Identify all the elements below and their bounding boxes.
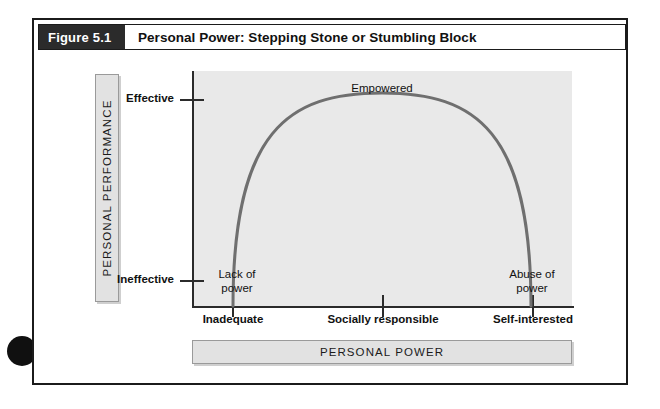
performance-curve-path: [233, 93, 531, 306]
x-tick-label-self-interested: Self-interested: [462, 313, 604, 325]
figure-number: Figure 5.1: [39, 25, 125, 49]
x-tick-label-inadequate: Inadequate: [162, 313, 304, 325]
annotation-abuse-of-power: Abuse of power: [490, 268, 574, 296]
y-tick-label-effective: Effective: [70, 92, 174, 104]
annotation-abuse-line1: Abuse of: [490, 268, 574, 282]
y-tick-label-ineffective: Ineffective: [60, 273, 174, 285]
annotation-lack-of-power: Lack of power: [200, 268, 274, 296]
annotation-empowered: Empowered: [317, 82, 447, 96]
x-axis-title-label: PERSONAL POWER: [320, 346, 444, 358]
annotation-abuse-line2: power: [490, 282, 574, 296]
y-axis-title-bar: PERSONAL PERFORMANCE: [95, 74, 119, 302]
y-axis-title-label: PERSONAL PERFORMANCE: [101, 100, 113, 277]
annotation-lack-line2: power: [200, 282, 274, 296]
x-axis-title-bar: PERSONAL POWER: [192, 340, 572, 364]
figure-header: Figure 5.1 Personal Power: Stepping Ston…: [38, 24, 626, 50]
annotation-lack-line1: Lack of: [200, 268, 274, 282]
figure-frame: Figure 5.1 Personal Power: Stepping Ston…: [32, 18, 628, 385]
figure-title: Personal Power: Stepping Stone or Stumbl…: [125, 25, 625, 49]
x-tick-label-socially-responsible: Socially responsible: [302, 313, 464, 325]
